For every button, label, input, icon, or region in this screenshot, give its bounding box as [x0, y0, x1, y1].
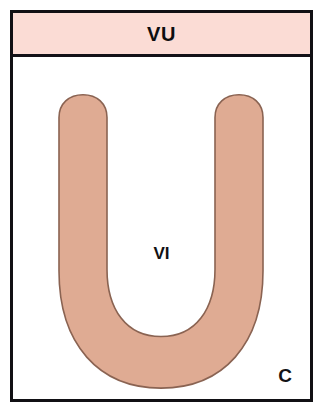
header-band-label: VU — [147, 24, 176, 44]
figure-root: VU VI C — [0, 0, 324, 414]
header-band-vu: VU — [13, 13, 310, 57]
panel-body-area: VI — [13, 57, 310, 399]
panel-letter-label: C — [278, 366, 292, 385]
diagram-panel: VU VI C — [10, 10, 313, 402]
u-shaped-structure-graphic — [13, 57, 310, 399]
u-shape-path — [59, 95, 263, 388]
